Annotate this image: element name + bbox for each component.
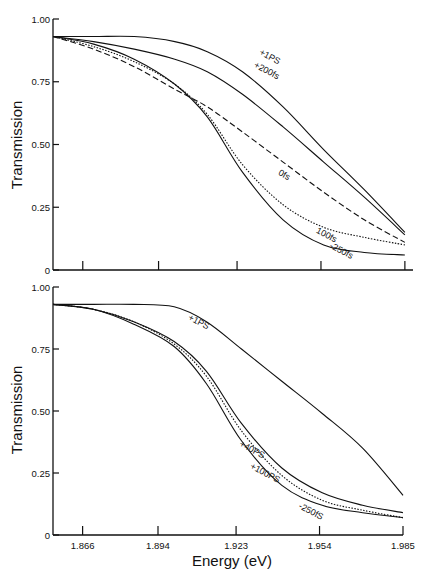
top-curves (53, 36, 405, 255)
x-tick-label: 1.866 (71, 540, 95, 551)
bottom-axes: 00.250.500.751.001.8661.8941.9231.9541.9… (32, 282, 415, 552)
bottom-annotations: +1PS+40PS+100PS-250fS (187, 312, 326, 522)
bottom-curves (53, 304, 403, 517)
y-tick-label: 0.50 (32, 139, 51, 150)
series-200fs-line (53, 37, 405, 235)
series-1ps-line (53, 36, 405, 232)
series-100fs-line (53, 37, 405, 245)
x-tick-label: 1.985 (391, 540, 415, 551)
x-tick-label: 1.923 (224, 540, 248, 551)
series-1ps-line (53, 304, 403, 495)
curve-label: 0fs (277, 168, 293, 183)
x-tick-label: 1.954 (308, 540, 332, 551)
y-tick-label: 0.50 (32, 406, 51, 417)
curve-label: -250fS (297, 501, 325, 522)
y-tick-label: 0.25 (32, 202, 51, 213)
top-y-axis-label: Transmission (8, 101, 25, 190)
y-tick-label: 1.00 (32, 14, 51, 25)
top-panel: 00.250.500.751.00 +1PS+200fs0fs100fs-250… (8, 14, 413, 276)
x-tick-label: 1.894 (146, 540, 170, 551)
y-tick-label: 1.00 (32, 282, 51, 293)
curve-label: +1PS (187, 312, 211, 331)
x-axis-label: Energy (eV) (192, 552, 272, 569)
transmission-chart: 00.250.500.751.00 +1PS+200fs0fs100fs-250… (0, 0, 428, 577)
curve-label: +100PS (249, 461, 282, 485)
series-40ps-line (53, 304, 403, 512)
top-axes: 00.250.500.751.00 (32, 14, 414, 276)
y-tick-label: 0 (45, 530, 50, 541)
series-250fs-line (53, 304, 403, 517)
y-tick-label: 0.75 (32, 344, 51, 355)
y-tick-label: 0.75 (32, 76, 51, 87)
curve-label: +40PS (238, 439, 267, 461)
series-0fs-line (53, 37, 405, 243)
bottom-y-axis-label: Transmission (8, 366, 25, 455)
bottom-panel: 00.250.500.751.001.8661.8941.9231.9541.9… (8, 282, 415, 570)
series-100ps-line (53, 304, 403, 517)
y-tick-label: 0 (45, 265, 50, 276)
y-tick-label: 0.25 (32, 468, 51, 479)
top-annotations: +1PS+200fs0fs100fs-250fs (252, 47, 355, 261)
curve-label: -250fs (328, 240, 355, 261)
